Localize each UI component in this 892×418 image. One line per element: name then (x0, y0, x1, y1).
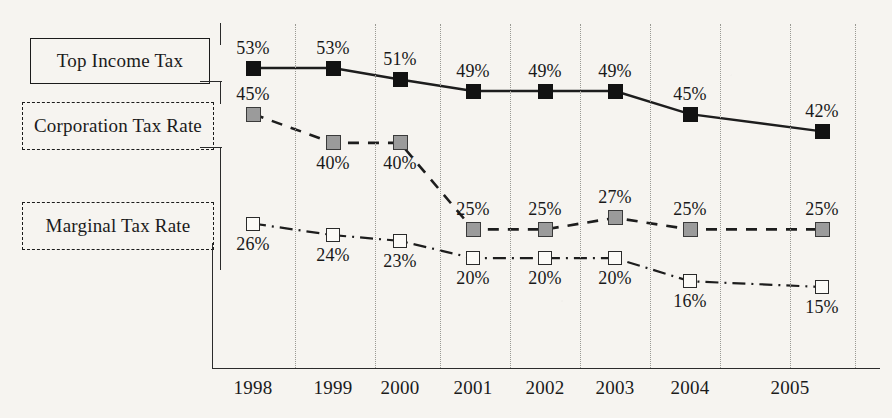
data-marker (246, 217, 260, 231)
gridline-0 (295, 24, 296, 368)
data-marker (815, 222, 830, 237)
data-marker (393, 135, 408, 150)
data-marker (326, 61, 341, 76)
data-label: 45% (660, 84, 720, 105)
x-tick-2005: 2005 (750, 377, 830, 399)
data-label: 25% (515, 199, 575, 220)
chart-root: Top Income TaxCorporation Tax RateMargin… (0, 0, 892, 418)
gridline-3 (510, 24, 511, 368)
data-label: 27% (585, 187, 645, 208)
data-marker (683, 107, 698, 122)
data-marker (608, 84, 623, 99)
data-marker (815, 124, 830, 139)
data-label: 49% (443, 61, 503, 82)
gridline-5 (650, 24, 651, 368)
gridline-4 (580, 24, 581, 368)
gridline-1 (375, 24, 376, 368)
gridline-6 (720, 24, 721, 368)
data-marker (326, 228, 340, 242)
data-marker (608, 251, 622, 265)
gridline-7 (790, 24, 791, 368)
data-marker (246, 61, 261, 76)
x-tick-2004: 2004 (650, 377, 730, 399)
data-marker (608, 210, 623, 225)
data-label: 53% (223, 38, 283, 59)
data-marker (683, 222, 698, 237)
y-axis-line (212, 243, 213, 368)
data-label: 25% (660, 199, 720, 220)
data-label: 15% (792, 297, 852, 318)
data-marker (466, 84, 481, 99)
data-marker (466, 222, 481, 237)
data-marker (393, 72, 408, 87)
data-label: 20% (585, 268, 645, 289)
x-tick-1998: 1998 (213, 377, 293, 399)
data-label: 26% (223, 234, 283, 255)
data-label: 40% (370, 153, 430, 174)
data-label: 25% (443, 199, 503, 220)
data-label: 20% (515, 268, 575, 289)
data-label: 49% (515, 61, 575, 82)
data-marker (246, 107, 261, 122)
x-tick-2003: 2003 (575, 377, 655, 399)
data-label: 45% (223, 84, 283, 105)
x-tick-2002: 2002 (505, 377, 585, 399)
data-marker (683, 274, 697, 288)
data-label: 40% (303, 153, 363, 174)
data-marker (326, 135, 341, 150)
data-marker (393, 234, 407, 248)
data-label: 16% (660, 291, 720, 312)
data-marker (538, 251, 552, 265)
x-tick-2001: 2001 (433, 377, 513, 399)
data-marker (466, 251, 480, 265)
x-axis-line (212, 368, 880, 369)
data-marker (538, 84, 553, 99)
data-label: 23% (370, 251, 430, 272)
data-label: 42% (792, 101, 852, 122)
data-label: 20% (443, 268, 503, 289)
data-label: 49% (585, 61, 645, 82)
data-label: 53% (303, 38, 363, 59)
x-tick-2000: 2000 (360, 377, 440, 399)
gridline-8 (855, 24, 856, 368)
data-label: 51% (370, 49, 430, 70)
data-marker (815, 280, 829, 294)
data-label: 24% (303, 245, 363, 266)
data-label: 25% (792, 199, 852, 220)
data-marker (538, 222, 553, 237)
gridline-2 (440, 24, 441, 368)
